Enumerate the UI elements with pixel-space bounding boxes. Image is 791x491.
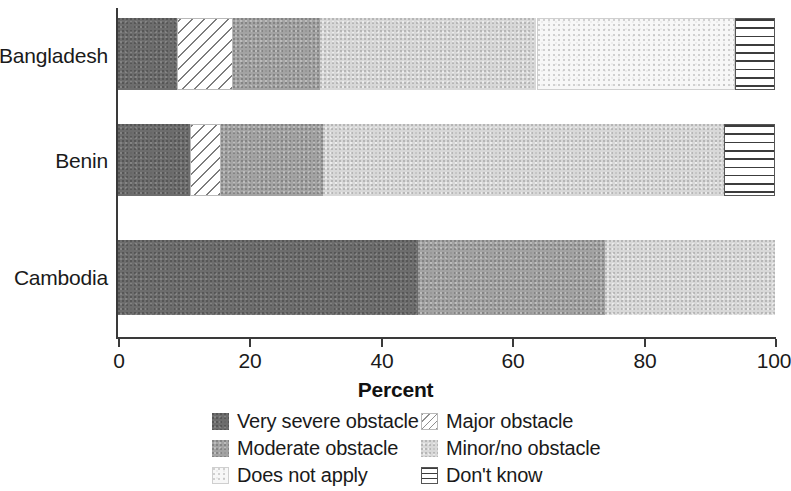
stacked-bar-chart: Bangladesh Benin Cambodia 0 20 40 60 80 … bbox=[0, 0, 791, 491]
bar-segment-benin-moderate bbox=[221, 124, 323, 196]
legend-item-dont-know[interactable]: Don't know bbox=[421, 464, 632, 487]
bar-segment-benin-dont_know bbox=[724, 124, 775, 196]
legend-item-does-not-apply[interactable]: Does not apply bbox=[212, 464, 421, 487]
x-tick-label-40: 40 bbox=[371, 349, 394, 373]
x-tick-20 bbox=[249, 339, 251, 347]
x-tick-label-100: 100 bbox=[757, 349, 791, 373]
legend-label-moderate: Moderate obstacle bbox=[237, 437, 398, 460]
legend-item-major-obstacle[interactable]: Major obstacle bbox=[421, 410, 632, 433]
x-tick-0 bbox=[118, 339, 120, 347]
bar-segment-cambodia-minor bbox=[605, 240, 775, 315]
x-tick-label-0: 0 bbox=[113, 349, 124, 373]
legend-row: Moderate obstacle Minor/no obstacle bbox=[212, 435, 632, 462]
category-label-benin: Benin bbox=[55, 149, 108, 173]
legend-swatch-does-not-apply-icon bbox=[212, 467, 229, 484]
x-tick-100 bbox=[775, 339, 777, 347]
x-tick-label-60: 60 bbox=[502, 349, 525, 373]
y-axis-category-labels: Bangladesh Benin Cambodia bbox=[0, 0, 108, 340]
legend-label-does-not-apply: Does not apply bbox=[237, 464, 368, 487]
category-label-bangladesh: Bangladesh bbox=[0, 44, 108, 68]
bar-segment-benin-very_severe bbox=[118, 124, 190, 196]
legend-row: Does not apply Don't know bbox=[212, 462, 632, 489]
legend-swatch-dont-know-icon bbox=[421, 467, 438, 484]
plot-area: 0 20 40 60 80 100 bbox=[118, 8, 775, 337]
legend-swatch-very-severe-icon bbox=[212, 413, 229, 430]
bar-segment-bangladesh-does_not_apply bbox=[537, 18, 735, 90]
legend-item-very-severe-obstacle[interactable]: Very severe obstacle bbox=[212, 410, 421, 433]
legend-label-minor: Minor/no obstacle bbox=[446, 437, 600, 460]
legend-item-moderate-obstacle[interactable]: Moderate obstacle bbox=[212, 437, 421, 460]
bar-segment-benin-major bbox=[190, 124, 221, 196]
x-tick-80 bbox=[644, 339, 646, 347]
legend-label-major: Major obstacle bbox=[446, 410, 573, 433]
x-axis-line bbox=[116, 337, 776, 339]
legend-swatch-major-icon bbox=[421, 413, 438, 430]
bar-segment-cambodia-very_severe bbox=[118, 240, 418, 315]
legend: Very severe obstacle Major obstacle Mode… bbox=[212, 408, 632, 489]
bar-segment-bangladesh-dont_know bbox=[735, 18, 775, 90]
bar-segment-benin-minor bbox=[323, 124, 724, 196]
bar-segment-bangladesh-minor bbox=[320, 18, 537, 90]
category-label-cambodia: Cambodia bbox=[14, 266, 108, 290]
bar-segment-bangladesh-moderate bbox=[233, 18, 320, 90]
legend-swatch-moderate-icon bbox=[212, 440, 229, 457]
legend-label-dont-know: Don't know bbox=[446, 464, 542, 487]
bar-segment-bangladesh-major bbox=[177, 18, 233, 90]
legend-swatch-minor-icon bbox=[421, 440, 438, 457]
bar-segment-cambodia-moderate bbox=[418, 240, 605, 315]
legend-label-very-severe: Very severe obstacle bbox=[237, 410, 419, 433]
x-tick-60 bbox=[512, 339, 514, 347]
x-tick-label-80: 80 bbox=[634, 349, 657, 373]
legend-row: Very severe obstacle Major obstacle bbox=[212, 408, 632, 435]
x-tick-label-20: 20 bbox=[239, 349, 262, 373]
legend-item-minor-no-obstacle[interactable]: Minor/no obstacle bbox=[421, 437, 632, 460]
x-axis-title: Percent bbox=[0, 378, 791, 402]
bar-segment-bangladesh-very_severe bbox=[118, 18, 177, 90]
x-tick-40 bbox=[381, 339, 383, 347]
